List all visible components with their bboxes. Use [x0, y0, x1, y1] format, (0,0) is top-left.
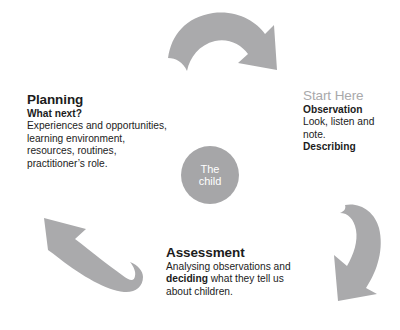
observation-heading: Observation — [303, 104, 397, 116]
observation-cycle-diagram: The child Planning What next? Experience… — [0, 0, 400, 330]
observation-emphasis: Describing — [303, 141, 397, 153]
stage-block-planning: Planning What next? Experiences and oppo… — [27, 92, 167, 170]
planning-heading: Planning — [27, 92, 167, 107]
center-circle-line2: child — [199, 175, 222, 188]
arrow-observation-to-assessment-icon — [334, 204, 381, 301]
stage-block-observation: Start Here Observation Look, listen and … — [303, 88, 397, 154]
observation-body: Look, listen and note. — [303, 116, 397, 141]
planning-body: Experiences and opportunities, learning … — [27, 120, 167, 170]
center-circle-the-child: The child — [181, 146, 239, 204]
start-here-label: Start Here — [303, 88, 397, 103]
assessment-body-part1: Analysing observations and — [166, 261, 291, 272]
stage-block-assessment: Assessment Analysing observations and de… — [166, 245, 298, 298]
arrow-assessment-to-planning-icon — [44, 218, 143, 292]
assessment-body: Analysing observations and deciding what… — [166, 261, 298, 298]
arrow-top-to-observation-icon — [168, 13, 277, 71]
assessment-heading: Assessment — [166, 245, 298, 260]
assessment-body-emphasis: deciding — [166, 273, 208, 284]
center-circle-line1: The — [201, 163, 220, 176]
planning-subheading: What next? — [27, 108, 167, 120]
